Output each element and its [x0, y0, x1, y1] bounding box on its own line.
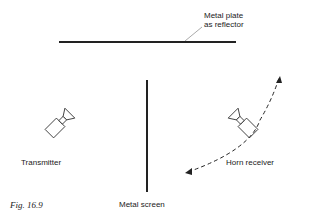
receiver-label: Horn receiver — [226, 158, 274, 167]
figure-caption: Fig. 16.9 — [10, 200, 43, 210]
diagram-canvas — [0, 0, 310, 219]
horn-receiver-icon — [228, 108, 258, 138]
arrow-head-up-icon — [276, 76, 282, 83]
arrow-head-down-icon — [185, 168, 192, 175]
transmitter-label: Transmitter — [21, 158, 61, 167]
screen-label: Metal screen — [119, 200, 165, 209]
reflector-label-line2: as reflector — [204, 20, 244, 29]
transmitter-icon — [44, 108, 74, 138]
reflector-label-line1: Metal plate — [204, 11, 243, 20]
reflector-leader-line — [185, 27, 202, 41]
